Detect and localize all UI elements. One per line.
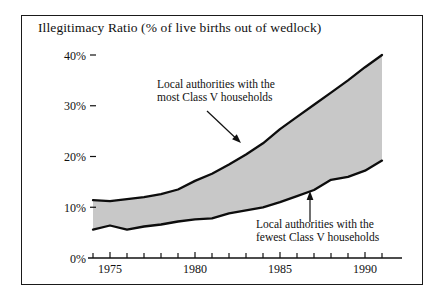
x-tick-label: 1980 — [183, 262, 207, 276]
annotation-line: fewest Class V households — [256, 231, 380, 243]
annotation-arrow-shaft — [207, 111, 236, 138]
y-tick-label: 20% — [64, 150, 86, 164]
x-tick-label: 1975 — [98, 262, 122, 276]
annotation-upper: Local authorities with themost Class V h… — [157, 78, 275, 143]
y-tick-label: 0% — [70, 252, 86, 266]
annotation-line: most Class V households — [157, 91, 273, 103]
annotation-line: Local authorities with the — [157, 78, 275, 90]
chart-plot-area: 0%10%20%30%40%1975198019851990Local auth… — [0, 0, 448, 305]
y-tick-label: 40% — [64, 49, 86, 63]
x-tick-label: 1990 — [353, 262, 377, 276]
x-tick-label: 1985 — [268, 262, 292, 276]
y-tick-label: 30% — [64, 99, 86, 113]
annotation-line: Local authorities with the — [256, 218, 374, 230]
y-tick-label: 10% — [64, 201, 86, 215]
